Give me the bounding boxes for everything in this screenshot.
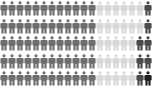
person-icon: [112, 1, 120, 16]
person-icon: [88, 71, 96, 86]
person-icon: [136, 36, 144, 51]
person-icon: [40, 1, 48, 16]
pictogram-row: [0, 0, 152, 17]
person-icon: [88, 1, 96, 16]
person-icon: [0, 54, 8, 69]
person-icon: [96, 36, 104, 51]
person-icon: [80, 71, 88, 86]
person-icon: [56, 36, 64, 51]
person-icon: [8, 1, 16, 16]
person-icon: [144, 1, 152, 16]
person-icon: [24, 19, 32, 34]
person-icon: [64, 19, 72, 34]
person-icon: [80, 54, 88, 69]
person-pictogram-grid: [0, 0, 152, 88]
person-icon: [16, 54, 24, 69]
person-icon: [104, 54, 112, 69]
person-icon: [24, 36, 32, 51]
person-icon: [64, 1, 72, 16]
person-icon: [40, 54, 48, 69]
pictogram-row: [0, 18, 152, 35]
person-icon: [8, 19, 16, 34]
person-icon: [40, 19, 48, 34]
person-icon: [128, 1, 136, 16]
person-icon: [112, 19, 120, 34]
person-icon: [96, 19, 104, 34]
person-icon: [112, 71, 120, 86]
person-icon: [128, 54, 136, 69]
person-icon: [64, 71, 72, 86]
person-icon: [32, 71, 40, 86]
person-icon: [32, 19, 40, 34]
person-icon: [96, 1, 104, 16]
person-icon: [104, 36, 112, 51]
person-icon: [8, 71, 16, 86]
person-icon: [0, 1, 8, 16]
person-icon: [104, 71, 112, 86]
person-icon: [32, 54, 40, 69]
pictogram-row: [0, 70, 152, 87]
person-icon: [0, 71, 8, 86]
person-icon: [120, 1, 128, 16]
person-icon: [64, 54, 72, 69]
person-icon: [64, 36, 72, 51]
person-icon: [16, 1, 24, 16]
person-icon: [96, 71, 104, 86]
person-icon: [24, 54, 32, 69]
person-icon: [48, 71, 56, 86]
person-icon: [120, 36, 128, 51]
person-icon: [120, 54, 128, 69]
person-icon: [56, 19, 64, 34]
person-icon: [112, 36, 120, 51]
person-icon: [8, 54, 16, 69]
person-icon: [136, 71, 144, 86]
person-icon: [40, 36, 48, 51]
person-icon: [104, 1, 112, 16]
person-icon: [112, 54, 120, 69]
person-icon: [56, 54, 64, 69]
person-icon: [48, 19, 56, 34]
person-icon: [80, 36, 88, 51]
pictogram-row: [0, 35, 152, 52]
person-icon: [72, 54, 80, 69]
person-icon: [0, 36, 8, 51]
person-icon: [144, 71, 152, 86]
person-icon: [136, 54, 144, 69]
person-icon: [24, 71, 32, 86]
person-icon: [56, 71, 64, 86]
person-icon: [72, 1, 80, 16]
person-icon: [0, 19, 8, 34]
person-icon: [48, 54, 56, 69]
pictogram-row: [0, 53, 152, 70]
person-icon: [80, 19, 88, 34]
person-icon: [48, 1, 56, 16]
person-icon: [136, 1, 144, 16]
person-icon: [96, 54, 104, 69]
person-icon: [128, 36, 136, 51]
person-icon: [32, 36, 40, 51]
person-icon: [88, 54, 96, 69]
person-icon: [72, 71, 80, 86]
person-icon: [136, 19, 144, 34]
person-icon: [128, 19, 136, 34]
person-icon: [32, 1, 40, 16]
person-icon: [8, 36, 16, 51]
person-icon: [144, 54, 152, 69]
person-icon: [72, 36, 80, 51]
person-icon: [72, 19, 80, 34]
person-icon: [128, 71, 136, 86]
person-icon: [120, 19, 128, 34]
person-icon: [56, 1, 64, 16]
person-icon: [16, 36, 24, 51]
person-icon: [88, 36, 96, 51]
person-icon: [144, 19, 152, 34]
person-icon: [144, 36, 152, 51]
person-icon: [104, 19, 112, 34]
person-icon: [16, 71, 24, 86]
person-icon: [88, 19, 96, 34]
person-icon: [24, 1, 32, 16]
person-icon: [40, 71, 48, 86]
person-icon: [48, 36, 56, 51]
person-icon: [80, 1, 88, 16]
person-icon: [120, 71, 128, 86]
